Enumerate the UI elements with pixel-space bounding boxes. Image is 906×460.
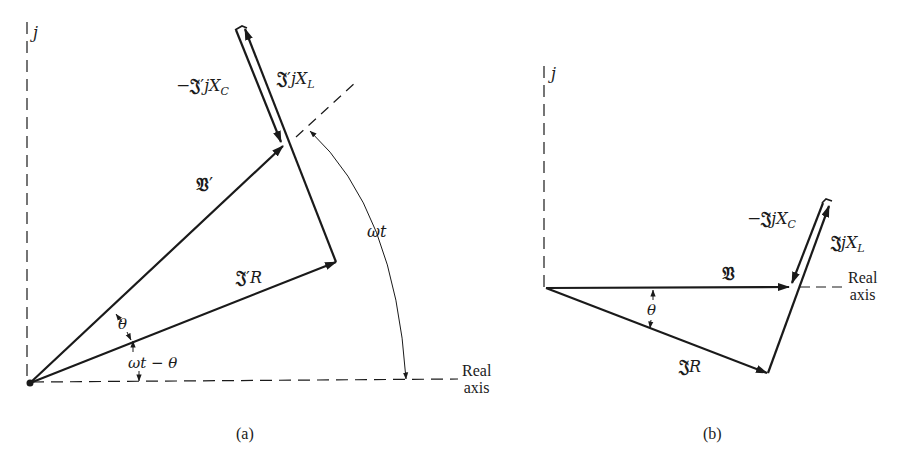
jx-term: jX xyxy=(771,209,787,228)
imaginary-axis-label-a: j xyxy=(33,25,38,41)
current-symbol: 𝔍 xyxy=(190,75,200,95)
omega-t-arc xyxy=(310,131,406,379)
jx-term: jX xyxy=(204,76,220,95)
omega-t-label: ωt xyxy=(367,224,386,240)
r-term: R xyxy=(250,268,262,287)
capacitive-drop-label-b: −𝔍jXC xyxy=(747,210,796,227)
theta-arrow-lower-b xyxy=(650,320,651,328)
capacitive-drop-phasor-b xyxy=(792,203,823,283)
real-axis-label-line2: axis xyxy=(848,286,877,303)
resistive-drop-label-a: 𝔍′R xyxy=(236,269,262,286)
phasor-tube-cap-b xyxy=(822,199,832,203)
voltage-phasor-a xyxy=(30,146,283,383)
prime-mark: ′ xyxy=(209,174,213,195)
theta-label-b: θ xyxy=(647,303,656,318)
real-axis-label-b: Real axis xyxy=(848,269,877,303)
real-axis-label-line1: Real xyxy=(848,269,877,286)
current-symbol: 𝔍 xyxy=(831,232,841,252)
current-symbol: 𝔍 xyxy=(679,356,689,376)
voltage-symbol: 𝔙 xyxy=(196,174,209,195)
real-axis-label-line1: Real xyxy=(462,362,491,379)
real-axis-label-line2: axis xyxy=(462,379,491,396)
theta-arrow-lower-a xyxy=(127,332,131,340)
resistive-drop-label-b: 𝔍R xyxy=(679,358,701,375)
jx-term: jX xyxy=(291,69,307,88)
resistive-drop-phasor-a xyxy=(30,262,336,383)
theta-label-a: θ xyxy=(118,317,127,332)
omega-t-minus-theta-label: ωt − θ xyxy=(128,356,177,371)
current-symbol: 𝔍 xyxy=(761,208,771,228)
capacitive-drop-phasor-a xyxy=(236,30,281,142)
resistive-drop-phasor-b xyxy=(546,288,767,373)
minus-sign: − xyxy=(176,75,190,95)
current-symbol: 𝔍 xyxy=(277,68,287,88)
voltage-phasor-b xyxy=(546,287,789,288)
subscript-l: L xyxy=(307,78,314,91)
real-axis-label-a: Real axis xyxy=(462,362,491,396)
inductive-drop-phasor-b xyxy=(768,206,829,373)
capacitive-drop-label-a: −𝔍′jXC xyxy=(176,77,229,94)
subscript-l: L xyxy=(857,242,864,255)
panel-b xyxy=(544,66,846,373)
voltage-label-b: 𝔙 xyxy=(722,265,735,283)
real-axis-a xyxy=(32,379,458,382)
subscript-c: C xyxy=(220,85,228,98)
inductive-drop-phasor-a xyxy=(245,29,336,262)
caption-a: (a) xyxy=(236,426,254,442)
subscript-c: C xyxy=(788,218,796,231)
phasor-diagram-figure: j −𝔍′jXC 𝔍′jXL 𝔙′ 𝔍′R θ ωt − θ ωt Real a… xyxy=(0,0,906,460)
inductive-drop-label-a: 𝔍′jXL xyxy=(277,70,315,87)
jx-term: jX xyxy=(841,233,857,252)
current-symbol: 𝔍 xyxy=(236,267,246,287)
caption-b: (b) xyxy=(703,426,722,442)
inductive-drop-label-b: 𝔍jXL xyxy=(831,234,865,251)
panel-a xyxy=(27,22,459,387)
voltage-symbol: 𝔙 xyxy=(722,263,735,284)
phasor-diagram-canvas xyxy=(0,0,906,460)
imaginary-axis-label-b: j xyxy=(551,66,556,82)
voltage-label-a: 𝔙′ xyxy=(196,176,213,194)
r-term: R xyxy=(689,357,701,376)
omega-t-reference-line xyxy=(296,82,356,137)
minus-sign: − xyxy=(747,208,761,228)
